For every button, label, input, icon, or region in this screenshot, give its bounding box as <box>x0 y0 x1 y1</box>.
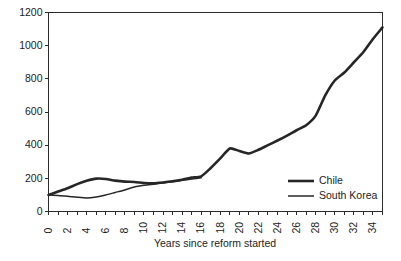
x-tick-label: 2 <box>61 228 73 234</box>
y-tick-label: 400 <box>25 138 43 150</box>
legend-label-south-korea: South Korea <box>319 189 378 201</box>
x-tick-label: 8 <box>118 228 130 234</box>
y-tick-label: 0 <box>37 205 43 217</box>
x-tick-label: 12 <box>156 222 168 234</box>
x-tick-label: 14 <box>175 222 187 234</box>
y-tick-label: 200 <box>25 172 43 184</box>
x-tick-label: 32 <box>347 222 359 234</box>
y-tick-label: 800 <box>25 72 43 84</box>
x-tick-label: 0 <box>42 228 54 234</box>
x-tick-label: 34 <box>366 222 378 234</box>
y-tick-label: 600 <box>25 105 43 117</box>
x-axis-title: Years since reform started <box>154 237 276 249</box>
x-tick-label: 24 <box>271 222 283 234</box>
x-tick-label: 18 <box>214 222 226 234</box>
x-tick-label: 20 <box>233 222 245 234</box>
x-tick-label: 16 <box>194 222 206 234</box>
line-chart: 020040060080010001200 024681012141618202… <box>0 0 401 261</box>
x-tick-label: 26 <box>290 222 302 234</box>
x-tick-label: 6 <box>99 228 111 234</box>
x-tick-label: 30 <box>328 222 340 234</box>
y-tick-label: 1200 <box>19 6 43 18</box>
chart-container: 020040060080010001200 024681012141618202… <box>0 0 401 261</box>
x-tick-label: 22 <box>252 222 264 234</box>
x-tick-label: 4 <box>80 228 92 234</box>
x-tick-label: 28 <box>309 222 321 234</box>
y-tick-label: 1000 <box>19 39 43 51</box>
x-tick-label: 10 <box>137 222 149 234</box>
legend-label-chile: Chile <box>319 174 343 186</box>
